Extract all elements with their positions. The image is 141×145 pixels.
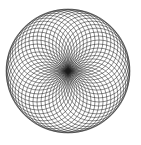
spirograph-pattern — [0, 0, 141, 145]
circle-rosette — [6, 9, 130, 133]
